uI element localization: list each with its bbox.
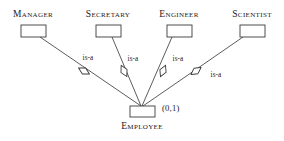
cardinality-label-employee: (0,1)	[162, 104, 179, 113]
entity-label-engineer: Engineer	[159, 10, 198, 20]
entity-label-scientist: Scientist	[232, 10, 272, 20]
connector-line-engineer	[142, 37, 172, 106]
entity-box-engineer[interactable]	[167, 25, 192, 37]
isa-label-scientist: is-a	[211, 72, 222, 79]
er-diagram-graphics	[0, 0, 284, 141]
subclass-entity-boxes	[21, 25, 265, 37]
isa-label-engineer: is-a	[173, 56, 184, 63]
entity-label-employee: Employee	[121, 122, 163, 132]
er-diagram-canvas: Manager Secretary Engineer Scientist is-…	[0, 0, 284, 141]
isa-relationship-diamonds	[77, 64, 203, 78]
entity-box-employee[interactable]	[130, 106, 155, 117]
entity-box-scientist[interactable]	[240, 25, 265, 37]
entity-label-secretary: Secretary	[86, 10, 130, 20]
isa-label-secretary: is-a	[128, 56, 139, 63]
entity-box-secretary[interactable]	[96, 25, 121, 37]
isa-label-manager: is-a	[83, 55, 94, 62]
entity-label-manager: Manager	[13, 10, 53, 20]
entity-box-manager[interactable]	[21, 25, 46, 37]
